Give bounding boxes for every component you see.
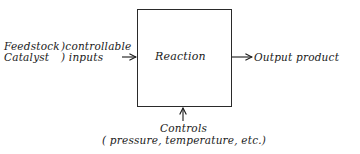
controls-detail-label: ( pressure, temperature, etc.): [102, 134, 266, 146]
output-product-label: Output product: [254, 51, 339, 63]
inputs-group-label-line2: ) inputs: [61, 51, 103, 63]
input-catalyst-label: Catalyst: [4, 51, 49, 63]
controls-label: Controls: [160, 122, 207, 134]
reaction-label: Reaction: [155, 51, 206, 63]
process-diagram: Reaction Feedstock )controllable Catalys…: [0, 0, 360, 154]
